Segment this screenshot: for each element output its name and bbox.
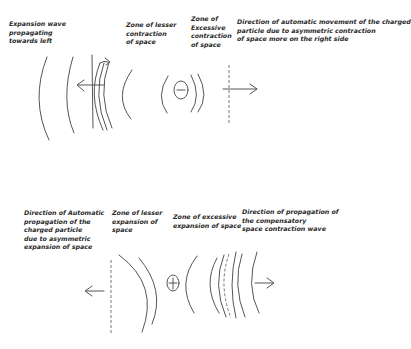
top-particle-zone xyxy=(161,74,204,113)
top-compressed-arcs xyxy=(94,58,112,130)
top-lesser-contraction-arc xyxy=(122,70,132,119)
bottom-compressed-arcs xyxy=(210,252,259,318)
top-right-arrow xyxy=(223,84,257,94)
bottom-excessive-expansion-arc xyxy=(186,256,197,313)
top-left-arrow xyxy=(77,80,104,91)
bottom-right-arrow xyxy=(255,278,274,288)
bottom-lesser-expansion-arcs xyxy=(119,255,157,332)
top-expansion-wave-arcs xyxy=(39,55,93,140)
bottom-left-arrow xyxy=(85,286,104,296)
negative-particle-icon xyxy=(174,81,188,99)
positive-particle-icon xyxy=(167,275,179,291)
